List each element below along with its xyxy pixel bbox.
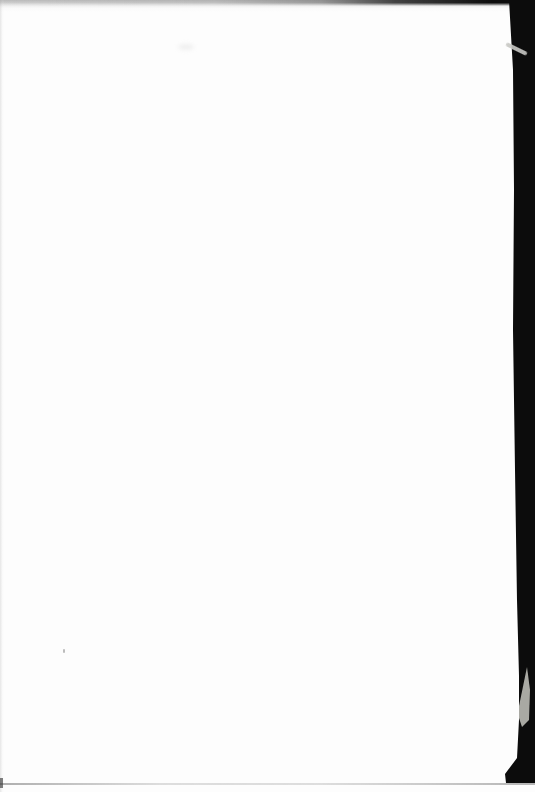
right-scan-band-graphic xyxy=(0,0,535,792)
scanned-blank-page xyxy=(0,0,535,792)
bottom-left-corner-nick xyxy=(0,778,3,788)
left-edge-scan-shade xyxy=(0,0,4,792)
bottom-edge-line xyxy=(0,783,535,785)
top-edge-dark-line xyxy=(0,0,535,6)
page-corner-wedge xyxy=(519,667,530,727)
right-scan-band-shape xyxy=(505,0,535,783)
paper-smudge xyxy=(178,44,194,50)
band-light-streak xyxy=(505,42,527,56)
dust-speck xyxy=(63,649,65,653)
